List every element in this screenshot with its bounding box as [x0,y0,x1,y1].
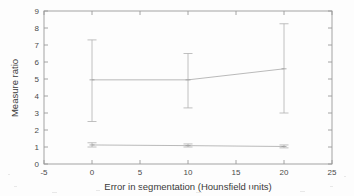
x-axis-tick-labels: -50510152025 [40,168,337,177]
scan-speck [300,191,305,192]
y-tick-label: 1 [35,143,40,152]
x-tick-label: 5 [138,168,143,177]
scan-speck [52,192,57,193]
scan-speck [330,186,333,187]
scan-speck [140,188,143,189]
series-lower-series [88,143,289,148]
x-tick-label: 15 [232,168,241,177]
series-upper-series [88,24,289,122]
scan-speck [14,186,17,187]
y-tick-label: 2 [35,126,40,135]
scan-speck [344,176,346,177]
data-series-layer [88,24,289,148]
x-tick-label: -5 [40,168,48,177]
x-tick-label: 10 [184,168,193,177]
x-axis-title: Error in segmentation (Hounsfield units) [104,181,271,192]
x-tick-label: 20 [280,168,289,177]
x-tick-label: 0 [90,168,95,177]
scan-speck [96,190,100,191]
y-tick-label: 7 [35,41,40,50]
y-tick-label: 0 [35,160,40,169]
y-tick-label: 8 [35,24,40,33]
y-tick-label: 3 [35,109,40,118]
error-bar [280,24,289,113]
error-bar [88,40,97,122]
x-tick-label: 25 [328,168,337,177]
chart-plot: -50510152025 0123456789 Error in segment… [0,0,354,196]
y-tick-label: 5 [35,75,40,84]
y-tick-label: 4 [35,92,40,101]
scan-speck [250,189,254,190]
scan-speck [8,174,10,175]
y-axis-tick-labels: 0123456789 [35,7,40,169]
y-tick-label: 6 [35,58,40,67]
scan-speck [196,192,202,193]
error-bar [184,54,193,108]
figure-canvas: -50510152025 0123456789 Error in segment… [0,0,354,196]
y-axis-title: Measure ratio [9,59,20,117]
y-tick-label: 9 [35,7,40,16]
